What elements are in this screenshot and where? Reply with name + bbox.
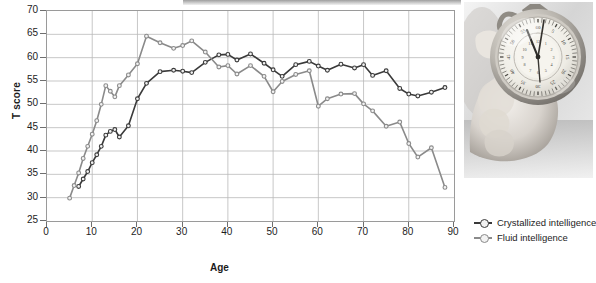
x-tick xyxy=(272,222,273,227)
data-point xyxy=(108,89,112,93)
stopwatch-photo-illustration: 60510152025303540455055 121234567891011 xyxy=(464,2,593,178)
data-point xyxy=(384,124,388,128)
svg-text:30: 30 xyxy=(535,84,541,89)
y-tick-label: 35 xyxy=(8,168,38,178)
data-point xyxy=(99,102,103,106)
data-point xyxy=(113,95,117,99)
data-point xyxy=(262,61,266,65)
chart-container: T score Age 25303540455055606570 0102030… xyxy=(0,0,462,283)
x-tick-label: 40 xyxy=(215,227,239,237)
data-point xyxy=(127,124,131,128)
data-point xyxy=(325,97,329,101)
y-tick-label: 50 xyxy=(8,98,38,108)
data-point xyxy=(145,34,149,38)
legend-item-crystallized[interactable]: Crystallized intelligence xyxy=(474,216,596,229)
data-point xyxy=(81,157,85,161)
data-point xyxy=(117,135,121,139)
data-point xyxy=(280,80,284,84)
data-point xyxy=(416,155,420,159)
x-tick xyxy=(46,222,47,227)
data-point xyxy=(407,142,411,146)
data-point xyxy=(181,44,185,48)
data-point xyxy=(339,62,343,66)
data-point xyxy=(113,128,117,132)
svg-text:5: 5 xyxy=(545,68,547,73)
data-point xyxy=(371,109,375,113)
data-point xyxy=(217,65,221,69)
svg-text:3: 3 xyxy=(552,55,554,60)
data-point xyxy=(108,130,112,134)
data-point xyxy=(339,92,343,96)
y-tick-label: 30 xyxy=(8,192,38,202)
data-point xyxy=(95,153,99,157)
data-point xyxy=(371,74,375,78)
data-point xyxy=(316,104,320,108)
svg-text:2: 2 xyxy=(550,47,552,52)
svg-text:15: 15 xyxy=(565,55,570,61)
x-tick-label: 80 xyxy=(396,227,420,237)
plot-svg xyxy=(47,11,454,221)
data-point xyxy=(271,90,275,94)
y-tick-label: 55 xyxy=(8,75,38,85)
y-tick-label: 60 xyxy=(8,52,38,62)
data-point xyxy=(429,146,433,150)
x-tick xyxy=(227,222,228,227)
stopwatch-photo: 60510152025303540455055 121234567891011 xyxy=(464,2,593,178)
data-point xyxy=(86,144,90,148)
y-tick-label: 25 xyxy=(8,215,38,225)
x-tick-label: 30 xyxy=(170,227,194,237)
data-point xyxy=(77,185,81,189)
data-point xyxy=(235,72,239,76)
data-point xyxy=(294,73,298,77)
data-point xyxy=(398,120,402,124)
data-point xyxy=(235,58,239,62)
svg-text:10: 10 xyxy=(522,47,526,52)
data-point xyxy=(190,71,194,75)
data-point xyxy=(353,66,357,70)
data-point xyxy=(280,74,284,78)
svg-text:1: 1 xyxy=(545,41,547,46)
plot-area xyxy=(46,10,455,222)
data-point xyxy=(68,196,72,200)
x-tick xyxy=(136,222,137,227)
x-tick-label: 90 xyxy=(441,227,465,237)
line-marker-icon xyxy=(474,232,492,243)
data-point xyxy=(226,64,230,68)
data-point xyxy=(362,63,366,67)
data-point xyxy=(226,53,230,57)
y-tick-label: 45 xyxy=(8,122,38,132)
data-point xyxy=(145,81,149,85)
data-point xyxy=(99,144,103,148)
y-tick-label: 40 xyxy=(8,145,38,155)
data-point xyxy=(172,46,176,50)
y-tick-label: 70 xyxy=(8,5,38,15)
data-point xyxy=(203,60,207,64)
svg-text:8: 8 xyxy=(524,62,526,67)
x-tick-label: 10 xyxy=(79,227,103,237)
legend-item-fluid[interactable]: Fluid intelligence xyxy=(474,231,596,244)
data-point xyxy=(104,133,108,137)
data-point xyxy=(117,84,121,88)
data-point xyxy=(249,64,253,68)
data-point xyxy=(307,60,311,64)
data-point xyxy=(443,86,447,90)
legend-label: Fluid intelligence xyxy=(497,232,568,243)
data-point xyxy=(203,50,207,54)
data-point xyxy=(407,92,411,96)
chart-legend: Crystallized intelligence Fluid intellig… xyxy=(474,216,596,246)
y-tick-label: 65 xyxy=(8,28,38,38)
x-tick xyxy=(317,222,318,227)
data-point xyxy=(172,68,176,72)
data-point xyxy=(158,70,162,74)
x-tick-label: 60 xyxy=(305,227,329,237)
data-point xyxy=(307,69,311,73)
data-point xyxy=(181,69,185,73)
x-axis-title: Age xyxy=(210,262,229,273)
data-point xyxy=(190,39,194,43)
x-tick-label: 0 xyxy=(34,227,58,237)
data-point xyxy=(429,90,433,94)
data-point xyxy=(362,102,366,106)
data-point xyxy=(316,64,320,68)
x-tick-label: 20 xyxy=(124,227,148,237)
data-point xyxy=(136,97,140,101)
